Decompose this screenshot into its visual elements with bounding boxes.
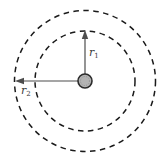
inner-radius-arrow <box>82 30 88 74</box>
outer-radius-label-subscript: 2 <box>26 90 30 98</box>
inner-radius-label-subscript: 1 <box>94 52 98 60</box>
concentric-circles-diagram: r1 r2 <box>0 0 165 162</box>
outer-radius-label: r2 <box>21 85 31 98</box>
inner-radius-label: r1 <box>89 47 99 60</box>
center-particle-body <box>78 74 92 88</box>
center-particle-icon <box>78 74 92 88</box>
diagram-canvas <box>0 0 165 162</box>
